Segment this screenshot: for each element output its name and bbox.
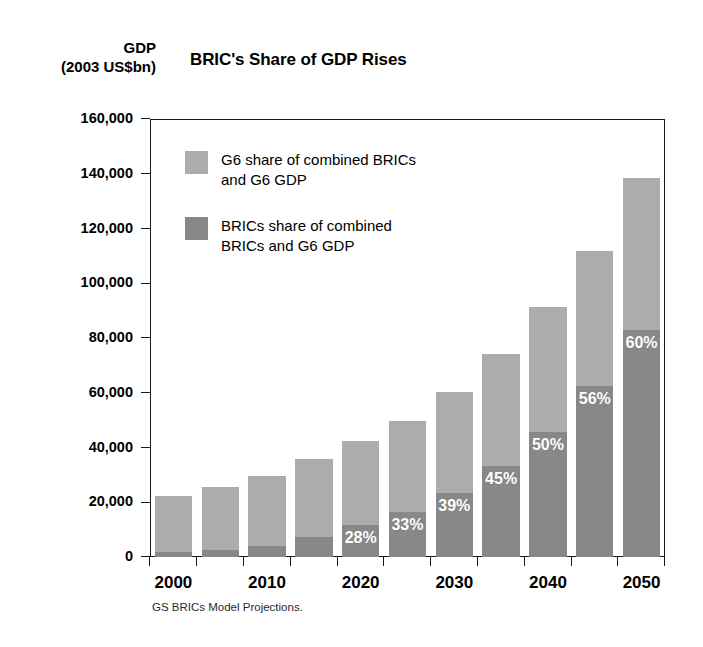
bar-column[interactable]: 28% [342, 441, 379, 557]
chart-footnote: GS BRICs Model Projections. [152, 601, 303, 613]
bar-column[interactable]: 50% [529, 307, 566, 557]
bar-column[interactable] [155, 496, 192, 557]
bar-segment-g6[interactable] [155, 496, 192, 552]
x-axis-tick-label: 2000 [154, 573, 192, 593]
bar-segment-g6[interactable] [389, 421, 426, 512]
bar-segment-brics[interactable] [202, 550, 239, 557]
bar-segment-g6[interactable] [436, 392, 473, 492]
chart-legend: G6 share of combined BRICs and G6 GDP BR… [185, 150, 425, 282]
bar-value-label: 39% [436, 497, 473, 515]
bar-segment-brics[interactable] [155, 552, 192, 557]
bar-segment-brics[interactable] [576, 386, 613, 557]
bar-column[interactable]: 45% [482, 354, 519, 557]
bar-column[interactable]: 60% [623, 178, 660, 557]
bar-column[interactable]: 39% [436, 392, 473, 557]
x-axis-tick-mark [383, 557, 384, 566]
x-axis-tick-mark [290, 557, 291, 566]
bar-column[interactable] [202, 487, 239, 557]
bar-value-label: 28% [342, 529, 379, 547]
x-axis-tick-mark [477, 557, 478, 566]
bar-segment-g6[interactable] [295, 459, 332, 537]
bar-segment-brics[interactable] [248, 546, 285, 557]
bar-column[interactable]: 56% [576, 251, 613, 557]
legend-label-g6: G6 share of combined BRICs and G6 GDP [221, 150, 425, 190]
x-axis-tick-mark [196, 557, 197, 566]
bar-segment-g6[interactable] [202, 487, 239, 550]
bar-value-label: 50% [529, 436, 566, 454]
bar-series-container: 28%33%39%45%50%56%60%2000201020202030204… [0, 0, 703, 647]
x-axis-tick-mark [430, 557, 431, 566]
bar-column[interactable] [248, 476, 285, 557]
legend-swatch-brics [185, 217, 208, 240]
x-axis-tick-label: 2020 [342, 573, 380, 593]
legend-label-brics: BRICs share of combined BRICs and G6 GDP [221, 216, 425, 256]
bar-column[interactable]: 33% [389, 421, 426, 557]
x-axis-tick-label: 2010 [248, 573, 286, 593]
bar-value-label: 45% [482, 470, 519, 488]
x-axis-tick-mark [243, 557, 244, 566]
x-axis-tick-mark [617, 557, 618, 566]
bar-segment-g6[interactable] [529, 307, 566, 432]
x-axis-tick-mark [664, 557, 665, 566]
bar-segment-g6[interactable] [576, 251, 613, 386]
x-axis-tick-label: 2030 [435, 573, 473, 593]
bar-segment-brics[interactable] [623, 330, 660, 557]
bar-column[interactable] [295, 459, 332, 557]
bar-segment-g6[interactable] [248, 476, 285, 546]
bar-value-label: 60% [623, 334, 660, 352]
legend-item-g6: G6 share of combined BRICs and G6 GDP [185, 150, 425, 190]
x-axis-tick-mark [571, 557, 572, 566]
x-axis-tick-label: 2040 [529, 573, 567, 593]
bar-segment-g6[interactable] [482, 354, 519, 466]
x-axis-tick-mark [337, 557, 338, 566]
x-axis-tick-label: 2050 [623, 573, 661, 593]
bar-value-label: 56% [576, 390, 613, 408]
bar-segment-g6[interactable] [623, 178, 660, 330]
bar-segment-brics[interactable] [295, 537, 332, 557]
bar-value-label: 33% [389, 516, 426, 534]
x-axis-tick-mark [149, 557, 150, 566]
x-axis-tick-mark [524, 557, 525, 566]
bar-segment-g6[interactable] [342, 441, 379, 524]
legend-swatch-g6 [185, 151, 208, 174]
legend-item-brics: BRICs share of combined BRICs and G6 GDP [185, 216, 425, 256]
